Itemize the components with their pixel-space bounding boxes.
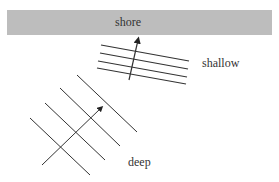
shallow-wavefronts — [97, 45, 189, 84]
deep-arrow — [42, 108, 101, 165]
wave-refraction-diagram: shore shallow deep — [0, 0, 279, 182]
wave-lines — [0, 0, 279, 182]
